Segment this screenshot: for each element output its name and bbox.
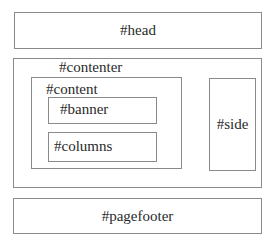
head-label: #head bbox=[120, 22, 156, 39]
columns-label: #columns bbox=[54, 138, 112, 155]
side-label: #side bbox=[217, 116, 249, 133]
side-box: #side bbox=[209, 78, 256, 171]
pagefooter-label: #pagefooter bbox=[102, 208, 174, 225]
content-label: #content bbox=[46, 81, 98, 98]
banner-label: #banner bbox=[60, 101, 108, 118]
contenter-label: #contenter bbox=[59, 59, 122, 76]
pagefooter-box: #pagefooter bbox=[13, 198, 262, 234]
head-box: #head bbox=[14, 12, 262, 49]
